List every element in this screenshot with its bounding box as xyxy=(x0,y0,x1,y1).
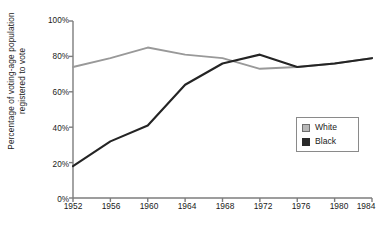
axis-lines xyxy=(73,21,372,198)
legend-item-black: Black xyxy=(302,135,336,148)
legend-item-white: White xyxy=(302,121,337,134)
legend-swatch-white xyxy=(302,124,310,132)
series-line-white xyxy=(73,48,372,69)
legend-label-black: Black xyxy=(315,137,336,146)
chart-legend: White Black xyxy=(296,117,359,152)
legend-label-white: White xyxy=(315,123,337,132)
legend-swatch-black xyxy=(302,138,310,146)
